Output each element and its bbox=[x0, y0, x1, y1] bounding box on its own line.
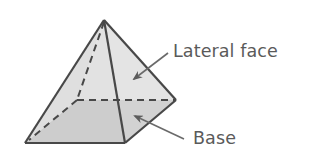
base-label: Base bbox=[193, 130, 236, 148]
lateral-face-label: Lateral face bbox=[173, 43, 278, 61]
pyramid-diagram: Lateral face Base bbox=[0, 0, 322, 158]
pyramid-figure bbox=[0, 0, 322, 158]
